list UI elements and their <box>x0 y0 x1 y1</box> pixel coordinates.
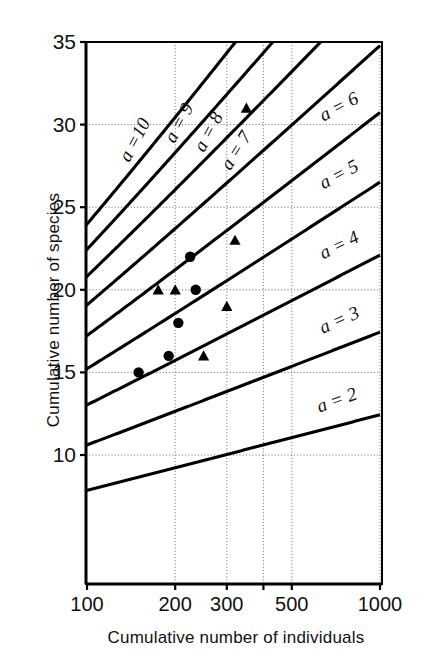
data-point-circle <box>133 367 143 377</box>
figure-container: a =10a = 9a = 8a = 7a = 6a = 5a = 4a = 3… <box>0 0 436 667</box>
data-point-triangle <box>229 235 240 245</box>
curve-label-alpha-5: a = 5 <box>315 155 361 193</box>
y-tick-label: 30 <box>53 113 76 136</box>
data-point-circle <box>163 351 173 361</box>
x-tick-label: 1000 <box>358 593 403 615</box>
curve-label-alpha-3: a = 3 <box>316 302 362 338</box>
x-tick-label: 100 <box>70 593 103 615</box>
curve-labels: a =10a = 9a = 8a = 7a = 6a = 5a = 4a = 3… <box>114 87 362 416</box>
y-axis-title: Cumulative number of species <box>44 160 64 460</box>
data-point-circle <box>185 252 195 262</box>
curve-label-alpha-2: a = 2 <box>314 383 360 417</box>
curve-label-alpha-6: a = 6 <box>315 87 362 125</box>
data-point-triangle <box>170 284 181 294</box>
data-point-triangle <box>198 350 209 360</box>
x-tick-label: 200 <box>159 593 192 615</box>
data-point-triangle <box>221 301 232 311</box>
x-tick-label: 300 <box>210 593 243 615</box>
y-tick-label: 35 <box>53 30 76 53</box>
x-axis-title: Cumulative number of individuals <box>36 628 436 648</box>
alpha-curve-9 <box>68 0 380 270</box>
data-point-circle <box>191 285 201 295</box>
data-point-circle <box>173 318 183 328</box>
x-tick-label: 500 <box>275 593 308 615</box>
chart-canvas: a =10a = 9a = 8a = 7a = 6a = 5a = 4a = 3… <box>0 0 436 667</box>
curve-label-alpha-10: a =10 <box>114 114 154 165</box>
data-point-triangle <box>241 102 252 112</box>
curve-label-alpha-4: a = 4 <box>316 226 363 263</box>
curve-label-alpha-7: a = 7 <box>216 126 257 173</box>
